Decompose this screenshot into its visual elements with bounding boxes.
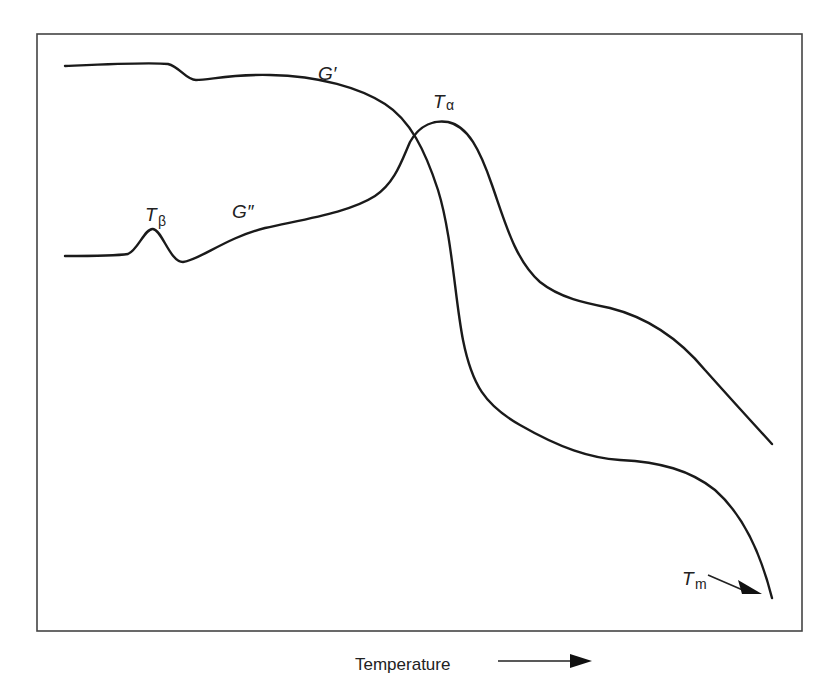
t-m-arrow-icon	[708, 575, 762, 594]
svg-text:β: β	[158, 213, 166, 229]
label-t-beta: T β	[145, 204, 166, 229]
x-axis-arrow-icon	[498, 654, 592, 668]
svg-text:T: T	[433, 91, 446, 112]
label-t-alpha: T α	[433, 91, 454, 113]
label-g-prime: G′	[318, 63, 338, 84]
x-axis-title: Temperature	[355, 655, 450, 674]
svg-text:T: T	[682, 568, 695, 589]
plot-frame	[37, 34, 802, 631]
label-g-double-prime: G″	[232, 201, 255, 222]
curve-g-prime	[65, 63, 772, 598]
label-t-m: T m	[682, 568, 707, 592]
svg-text:m: m	[695, 576, 707, 592]
chart: G′ G″ T β T α T m Temperature	[0, 0, 839, 687]
svg-text:α: α	[446, 97, 454, 113]
svg-text:T: T	[145, 204, 158, 225]
curve-g-double-prime	[65, 122, 772, 444]
